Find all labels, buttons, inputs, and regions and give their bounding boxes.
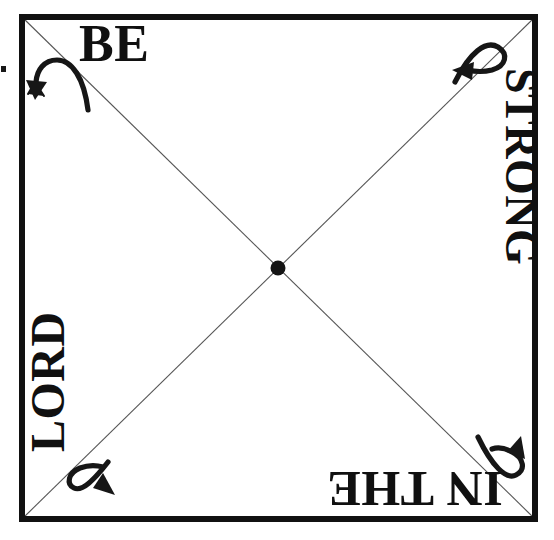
label-be: BE <box>79 18 149 70</box>
center-dot <box>271 261 286 276</box>
diagram-canvas: BE STRONG IN THE LORD <box>0 0 554 540</box>
diagram-graphics-layer <box>0 0 554 540</box>
label-lord: LORD <box>24 311 72 452</box>
label-strong: STRONG <box>498 68 544 265</box>
left-edge-mark <box>1 66 6 72</box>
label-in-the: IN THE <box>327 464 503 514</box>
rotation-arrow-bottom-left <box>69 462 115 495</box>
